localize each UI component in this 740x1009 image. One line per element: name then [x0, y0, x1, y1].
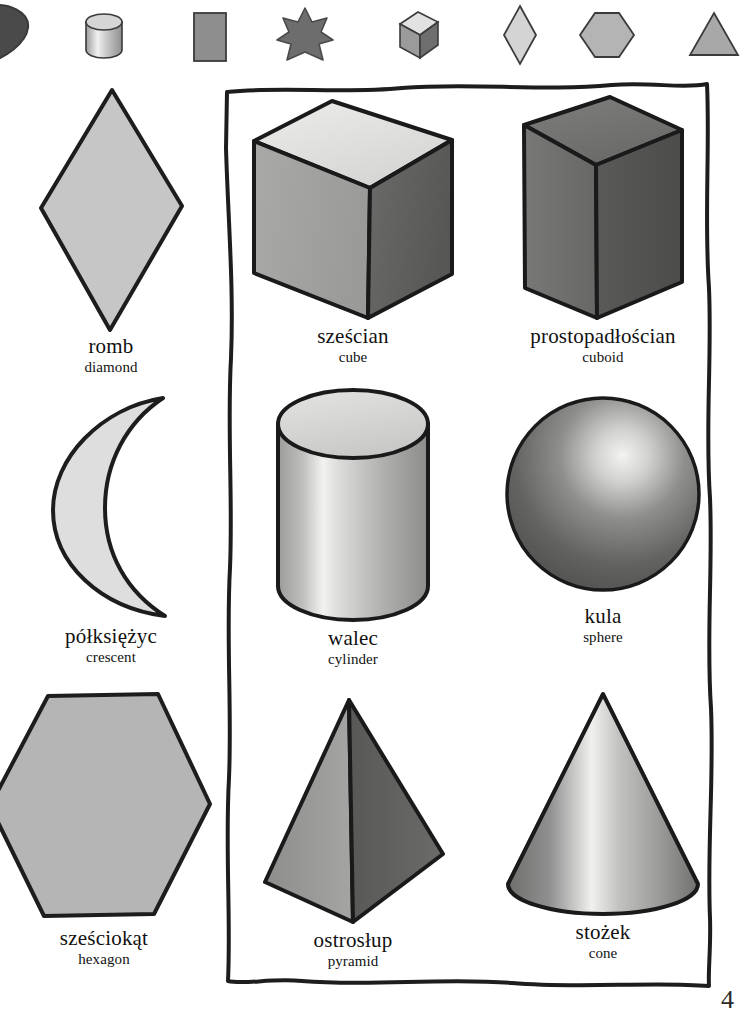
shape-cell-cone: stożek cone [478, 688, 728, 962]
hexagon-icon [577, 10, 637, 64]
shape-label-en: pyramid [228, 952, 478, 970]
shape-cell-crescent: półksiężyc crescent [0, 386, 222, 666]
shape-cell-diamond: romb diamond [0, 86, 222, 376]
cube-icon [392, 6, 446, 68]
shape-label-pl: ostrosłup [228, 928, 478, 952]
shape-cell-hexagon: sześciokąt hexagon [0, 688, 222, 968]
shape-label-pl: romb [0, 334, 222, 358]
diamond-shape [0, 86, 222, 334]
shape-label-en: cuboid [478, 348, 728, 366]
shape-label-pl: prostopadłościan [478, 324, 728, 348]
shape-label-en: cube [228, 348, 478, 366]
shape-cell-pyramid: ostrosłup pyramid [228, 694, 478, 970]
crescent-shape [0, 386, 222, 624]
cuboid-shape [478, 92, 728, 324]
shape-label-pl: sześcian [228, 324, 478, 348]
shape-label-pl: sześciokąt [0, 926, 222, 950]
shape-label-en: cylinder [228, 650, 478, 668]
shape-label-en: hexagon [0, 950, 222, 968]
hexagon-shape [0, 688, 222, 926]
triangle-icon [688, 10, 740, 62]
cylinder-icon [82, 10, 126, 66]
shape-label-pl: kula [478, 604, 728, 628]
sphere-shape [478, 386, 728, 604]
pyramid-shape [228, 694, 478, 928]
shape-label-en: cone [478, 944, 728, 962]
heart-icon [0, 4, 44, 68]
shape-cell-cylinder: walec cylinder [228, 386, 478, 668]
shape-cell-cuboid: prostopadłościan cuboid [478, 92, 728, 366]
shape-cell-sphere: kula sphere [478, 386, 728, 646]
rectangle-icon [190, 10, 230, 68]
cylinder-shape [228, 386, 478, 626]
shape-label-en: diamond [0, 358, 222, 376]
page-number: 4 [721, 985, 734, 1009]
cube-shape [228, 92, 478, 324]
star-icon [275, 6, 335, 68]
cone-shape [478, 688, 728, 920]
shape-label-en: crescent [0, 648, 222, 666]
shape-cell-cube: sześcian cube [228, 92, 478, 366]
diamond-icon [500, 4, 540, 70]
shape-label-en: sphere [478, 628, 728, 646]
shape-icon-strip [0, 0, 736, 72]
shape-label-pl: stożek [478, 920, 728, 944]
shape-label-pl: półksiężyc [0, 624, 222, 648]
shape-label-pl: walec [228, 626, 478, 650]
